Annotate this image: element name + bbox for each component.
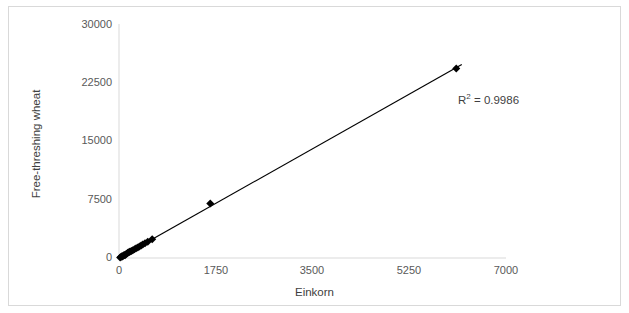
- x-tick-label-3500: 3500: [292, 264, 332, 276]
- trendline-path: [119, 65, 462, 258]
- trendline: [119, 65, 462, 258]
- y-tick-label-15000: 15000: [54, 134, 112, 146]
- y-tick-label-7500: 7500: [54, 193, 112, 205]
- y-tick-label-0: 0: [54, 251, 112, 263]
- r-squared-exponent: 2: [466, 92, 470, 101]
- y-tick-label-22500: 22500: [54, 76, 112, 88]
- x-tick-label-1750: 1750: [196, 264, 236, 276]
- r-squared-value: = 0.9986: [474, 94, 519, 106]
- x-tick-label-7000: 7000: [486, 264, 526, 276]
- y-tick-label-30000: 30000: [54, 18, 112, 30]
- chart-figure: 30000 22500 15000 7500 0 0 1750 3500 525…: [0, 0, 629, 313]
- r-squared-annotation: R2 = 0.9986: [458, 92, 519, 106]
- data-point-marker: [206, 199, 214, 207]
- x-tick-label-5250: 5250: [389, 264, 429, 276]
- x-axis-title: Einkorn: [0, 286, 629, 298]
- x-tick-label-0: 0: [99, 264, 139, 276]
- axis-lines: [119, 24, 506, 258]
- y-axis-title: Free-threshing wheat: [30, 64, 42, 224]
